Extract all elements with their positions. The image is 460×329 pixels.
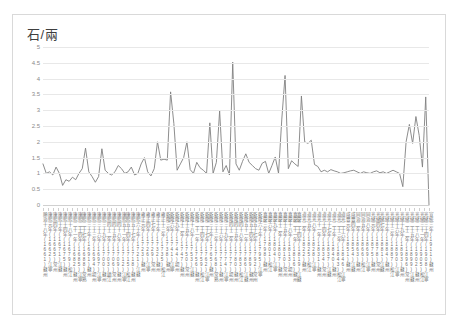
x-axis-tick [77,208,78,211]
x-axis-tick [282,208,283,211]
x-axis-tick [341,208,342,211]
y-axis-tick-label: 0.5 [32,186,40,192]
gridline [43,142,429,143]
y-axis-tick-label: 4 [37,76,40,82]
y-axis-tick-label: 2.5 [32,123,40,129]
x-axis-tick [97,208,98,211]
x-axis-tick [165,208,166,211]
series-polyline [43,62,429,205]
x-axis-tick [190,208,191,211]
gridline [43,63,429,64]
x-axis-tick [287,208,288,211]
x-axis-tick [53,208,54,211]
x-axis-tick [209,208,210,211]
x-axis-tick [58,208,59,211]
x-axis-tick [395,208,396,211]
x-axis-tick [248,208,249,211]
x-axis-tick [307,208,308,211]
x-axis-tick [170,208,171,211]
x-axis-tick [365,208,366,211]
x-axis-tick [405,208,406,211]
x-axis-tick [400,208,401,211]
x-axis-tick [150,208,151,211]
x-axis-tick [67,208,68,211]
x-axis-tick [263,208,264,211]
x-axis-tick [351,208,352,211]
x-axis-tick [292,208,293,211]
gridline [43,79,429,80]
x-axis-tick [273,208,274,211]
y-axis-tick-label: 3.5 [32,91,40,97]
x-axis-tick [229,208,230,211]
x-axis-tick [126,208,127,211]
x-axis-tick [219,208,220,211]
x-axis-tick [326,208,327,211]
x-axis-tick [92,208,93,211]
x-axis-tick [136,208,137,211]
x-axis-tick [175,208,176,211]
y-axis-tick-label: 1 [37,170,40,176]
x-axis-tick [107,208,108,211]
x-axis-tick [429,208,430,211]
x-axis-tick [82,208,83,211]
x-axis-tick [234,208,235,211]
x-axis-tick [331,208,332,211]
x-axis-tick [224,208,225,211]
y-axis-tick-label: 2 [37,139,40,145]
x-axis-tick [160,208,161,211]
x-axis-tick [356,208,357,211]
x-axis-tick [111,208,112,211]
x-axis-tick [370,208,371,211]
x-axis-tick [146,208,147,211]
x-axis-tick [390,208,391,211]
chart-frame: 石/兩 00.511.522.533.544.55 順治十八年(1661)蘇州康… [12,14,446,315]
gridline [43,110,429,111]
x-axis-tick [380,208,381,211]
plot-wrapper: 00.511.522.533.544.55 順治十八年(1661)蘇州康熙元年(… [13,15,447,316]
x-axis-tick [116,208,117,211]
gridline [43,189,429,190]
x-axis-tick [243,208,244,211]
x-axis-tick [180,208,181,211]
x-axis-tick [385,208,386,211]
y-axis-tick-label: 3 [37,107,40,113]
x-axis-tick [253,208,254,211]
x-axis-tick [238,208,239,211]
x-axis-tick [121,208,122,211]
x-axis-tick [361,208,362,211]
x-axis-tick [131,208,132,211]
x-axis-tick [414,208,415,211]
x-axis-tick [194,208,195,211]
gridline [43,126,429,127]
x-axis-tick-label: 宣統三年(1911)蘇州 [427,212,432,272]
x-axis-tick [409,208,410,211]
x-axis-tick [102,208,103,211]
y-axis-tick-label: 4.5 [32,60,40,66]
x-axis-tick [87,208,88,211]
x-axis-tick [48,208,49,211]
x-axis-tick [312,208,313,211]
y-axis-tick-label: 1.5 [32,155,40,161]
gridline [43,173,429,174]
x-axis-tick [258,208,259,211]
x-axis-tick [268,208,269,211]
gridline [43,158,429,159]
plot-area: 00.511.522.533.544.55 [43,47,429,205]
gridline [43,47,429,48]
x-axis-tick [375,208,376,211]
x-axis-tick [199,208,200,211]
x-axis-line [43,205,429,206]
x-axis-tick [336,208,337,211]
x-axis-tick [72,208,73,211]
x-axis-tick [43,208,44,211]
x-axis-tick [278,208,279,211]
x-axis-tick [141,208,142,211]
x-axis-tick [63,208,64,211]
x-axis-tick [214,208,215,211]
x-axis-tick [317,208,318,211]
x-axis-tick [322,208,323,211]
x-axis-tick [297,208,298,211]
x-axis-tick [155,208,156,211]
x-axis-tick [346,208,347,211]
x-axis-labels: 順治十八年(1661)蘇州康熙元年(1662)江寧康熙四年(1665)常州康熙十… [43,208,429,303]
